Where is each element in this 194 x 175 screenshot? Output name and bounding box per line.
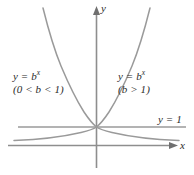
label-x-axis: x bbox=[180, 139, 185, 152]
label-asymptote: y = 1 bbox=[158, 113, 182, 126]
label-left-curve-condition: (0 < b < 1) bbox=[13, 83, 64, 96]
label-right-curve: y = bx (b > 1) bbox=[118, 70, 150, 96]
label-right-curve-condition: (b > 1) bbox=[118, 83, 150, 96]
label-left-curve-equation: y = bx bbox=[13, 70, 40, 82]
label-right-curve-exponent: x bbox=[142, 68, 145, 77]
exponential-functions-figure: y = bx (0 < b < 1) y = bx (b > 1) y = 1 … bbox=[0, 0, 194, 175]
label-y-axis: y bbox=[101, 2, 106, 15]
y-axis bbox=[93, 6, 100, 168]
label-right-curve-equation: y = bx bbox=[118, 70, 145, 82]
label-left-curve: y = bx (0 < b < 1) bbox=[13, 70, 64, 96]
label-left-curve-exponent: x bbox=[37, 68, 40, 77]
x-axis bbox=[8, 142, 178, 149]
